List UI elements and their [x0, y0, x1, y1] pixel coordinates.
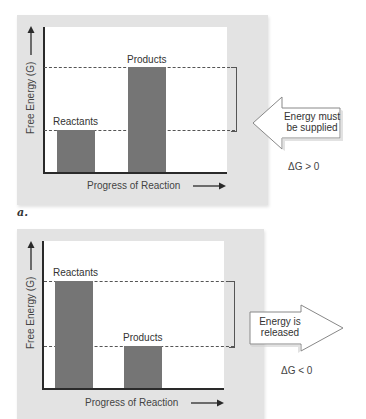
panel-b-delta-bracket	[229, 281, 235, 348]
panel-a-reactants-bar	[57, 130, 95, 172]
panel-b-products-label: Products	[123, 332, 162, 343]
panel-a-callout-line1: Energy must	[282, 111, 342, 122]
panel-a-x-axis-label: Progress of Reaction	[87, 180, 180, 191]
panel-b-y-axis	[42, 241, 44, 389]
panel-a-callout-text: Energy must be supplied	[282, 111, 342, 133]
panel-a-y-axis	[43, 27, 45, 173]
panel-b-y-axis-arrow-icon	[27, 241, 35, 271]
panel-a-delta-g: ΔG > 0	[288, 161, 319, 172]
panel-b-reactants-bar	[55, 281, 93, 388]
panel-a-x-axis	[43, 172, 227, 174]
panel-a-y-axis-arrow-icon	[27, 26, 35, 56]
panel-b-callout-text: Energy is released	[252, 316, 308, 338]
panel-b-x-axis-label: Progress of Reaction	[85, 397, 178, 408]
panel-b-x-axis	[42, 388, 224, 390]
panel-b-y-axis-label: Free Energy (G)	[25, 277, 36, 349]
panel-b-reactants-label: Reactants	[53, 267, 98, 278]
panel-a-products-label: Products	[127, 54, 166, 65]
panel-a-reactants-label: Reactants	[53, 116, 98, 127]
panel-a-delta-bracket	[231, 67, 237, 132]
panel-b-callout-line1: Energy is	[252, 316, 308, 327]
panel-b-callout-line2: released	[252, 327, 308, 338]
panel-b-x-axis-arrow-icon	[191, 399, 225, 407]
panel-a-y-axis-label: Free Energy (G)	[25, 62, 36, 134]
panel-a-products-bar	[128, 67, 166, 172]
panel-b-products-bar	[124, 346, 162, 388]
panel-a-sublabel: a.	[17, 206, 28, 219]
panel-b-delta-g: ΔG < 0	[281, 365, 312, 376]
panel-a-callout-line2: be supplied	[282, 122, 342, 133]
panel-a-x-axis-arrow-icon	[193, 182, 227, 190]
